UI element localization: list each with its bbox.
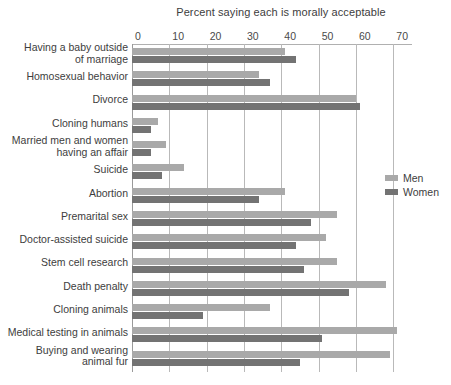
bar-women <box>132 126 151 133</box>
legend-swatch-men-icon <box>385 175 398 181</box>
category-label: Having a baby outside of marriage <box>0 42 128 65</box>
bar-men <box>132 234 326 241</box>
bar-group <box>132 118 412 141</box>
category-label: Suicide <box>0 164 128 176</box>
bar-women <box>132 103 360 110</box>
bar-group <box>132 188 412 211</box>
bar-chart: Percent saying each is morally acceptabl… <box>0 0 451 385</box>
legend-item-men: Men <box>385 172 439 184</box>
y-axis-category-labels: Having a baby outside of marriageHomosex… <box>0 45 128 375</box>
bar-men <box>132 141 166 148</box>
bar-men <box>132 188 285 195</box>
bar-men <box>132 327 397 334</box>
bar-men <box>132 95 356 102</box>
bar-women <box>132 79 270 86</box>
bar-men <box>132 211 337 218</box>
bar-women <box>132 219 311 226</box>
category-label: Medical testing in animals <box>0 327 128 339</box>
category-label: Abortion <box>0 188 128 200</box>
bar-group <box>132 258 412 281</box>
bar-women <box>132 149 151 156</box>
bar-women <box>132 242 296 249</box>
bar-women <box>132 289 349 296</box>
x-tick-label-0: 0 <box>132 30 141 42</box>
bar-women <box>132 56 296 63</box>
bar-group <box>132 48 412 71</box>
bar-women <box>132 196 259 203</box>
chart-axis-area: 010203040506070 <box>132 30 412 371</box>
chart-legend: Men Women <box>385 172 439 200</box>
plot-area <box>132 45 412 371</box>
bar-men <box>132 164 184 171</box>
bar-group <box>132 327 412 350</box>
x-tick-label-40: 40 <box>281 30 296 42</box>
category-label: Cloning animals <box>0 304 128 316</box>
category-label: Cloning humans <box>0 118 128 130</box>
bar-group <box>132 141 412 164</box>
category-label: Stem cell research <box>0 257 128 269</box>
bar-men <box>132 304 270 311</box>
bar-men <box>132 258 337 265</box>
category-label: Death penalty <box>0 281 128 293</box>
x-tick-label-60: 60 <box>356 30 371 42</box>
bar-men <box>132 351 390 358</box>
category-label: Doctor-assisted suicide <box>0 234 128 246</box>
bar-women <box>132 172 162 179</box>
category-label: Premarital sex <box>0 211 128 223</box>
category-label: Married men and women having an affair <box>0 135 128 158</box>
bar-women <box>132 266 304 273</box>
category-label: Homosexual behavior <box>0 71 128 83</box>
bar-group <box>132 211 412 234</box>
x-tick-label-50: 50 <box>319 30 334 42</box>
category-label: Divorce <box>0 94 128 106</box>
legend-label-women: Women <box>403 186 439 198</box>
bar-men <box>132 71 259 78</box>
bar-group <box>132 281 412 304</box>
legend-item-women: Women <box>385 186 439 198</box>
bar-group <box>132 95 412 118</box>
bar-group <box>132 164 412 187</box>
x-tick-label-10: 10 <box>169 30 184 42</box>
bar-women <box>132 312 203 319</box>
legend-swatch-women-icon <box>385 189 398 195</box>
category-label: Buying and wearing animal fur <box>0 345 128 368</box>
bar-group <box>132 234 412 257</box>
bar-women <box>132 359 300 366</box>
bar-group <box>132 71 412 94</box>
bar-group <box>132 304 412 327</box>
x-tick-label-30: 30 <box>244 30 259 42</box>
legend-label-men: Men <box>403 172 423 184</box>
bar-men <box>132 281 386 288</box>
x-tick-label-70: 70 <box>393 30 408 42</box>
chart-title: Percent saying each is morally acceptabl… <box>131 6 431 18</box>
bar-men <box>132 48 285 55</box>
bar-women <box>132 335 322 342</box>
bar-group <box>132 351 412 374</box>
bar-men <box>132 118 158 125</box>
x-tick-label-20: 20 <box>207 30 222 42</box>
